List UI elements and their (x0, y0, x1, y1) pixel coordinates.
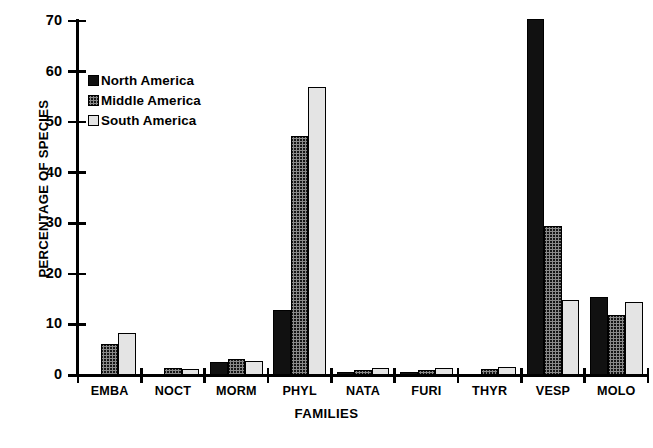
bar-thyr-south-america (498, 367, 516, 375)
bar-group-vesp (527, 0, 580, 375)
bar-group-furi (400, 0, 453, 375)
legend-item-north-america: North America (88, 71, 201, 90)
bar-molo-south-america (625, 302, 643, 375)
bar-phyl-north-america (273, 310, 291, 375)
bar-group-emba (83, 0, 136, 375)
bar-nata-south-america (372, 368, 390, 375)
bar-molo-north-america (590, 297, 608, 375)
bar-emba-south-america (118, 333, 136, 375)
legend-label-north-america: North America (101, 74, 194, 87)
bar-thyr-middle-america (481, 369, 499, 375)
x-axis-title: FAMILIES (0, 406, 653, 421)
bar-vesp-north-america (527, 19, 545, 375)
bar-group-molo (590, 0, 643, 375)
legend-label-south-america: South America (101, 114, 196, 127)
bar-chart-figure: PERCENTAGE OF SPECIES 010203040506070 EM… (0, 0, 653, 448)
light-gray-swatch-icon (88, 115, 99, 126)
legend-item-south-america: South America (88, 111, 201, 130)
bar-phyl-middle-america (291, 136, 309, 375)
hatched-gray-swatch-icon (88, 95, 99, 106)
bar-nata-north-america (337, 372, 355, 375)
bar-molo-middle-america (608, 315, 626, 375)
bar-emba-middle-america (101, 344, 119, 375)
bar-furi-middle-america (418, 370, 436, 375)
bar-group-nata (337, 0, 390, 375)
bar-noct-middle-america (164, 368, 182, 375)
bar-phyl-south-america (308, 87, 326, 375)
x-axis-label-molo: MOLO (571, 384, 653, 398)
solid-black-swatch-icon (88, 75, 99, 86)
legend-item-middle-america: Middle America (88, 91, 201, 110)
bar-morm-south-america (245, 361, 263, 375)
bar-morm-north-america (210, 362, 228, 375)
bar-furi-south-america (435, 368, 453, 375)
chart-legend: North America Middle America South Ameri… (88, 71, 201, 131)
bar-vesp-middle-america (544, 226, 562, 375)
bar-nata-middle-america (354, 370, 372, 375)
bar-group-noct (147, 0, 200, 375)
bar-group-thyr (463, 0, 516, 375)
bar-group-phyl (273, 0, 326, 375)
bar-group-morm (210, 0, 263, 375)
bars-layer (0, 0, 653, 375)
bar-noct-south-america (182, 369, 200, 375)
bar-vesp-south-america (562, 300, 580, 375)
bar-morm-middle-america (228, 359, 246, 375)
legend-label-middle-america: Middle America (101, 94, 201, 107)
bar-furi-north-america (400, 372, 418, 375)
